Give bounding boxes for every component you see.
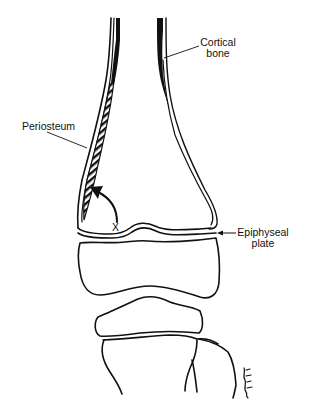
label-cortical-bone: Cortical bone: [198, 37, 238, 59]
signature-scribble: [244, 368, 252, 398]
left-arrow-icon: [217, 231, 223, 236]
x-curved-arrow: [98, 192, 117, 222]
label-periosteum: Periosteum: [22, 121, 75, 132]
tibia-right-edge-b: [192, 360, 197, 392]
periosteum-leader: [47, 132, 87, 148]
label-cortical-bone-line2: bone: [198, 48, 238, 59]
diagram-drawing: [0, 0, 314, 403]
label-epiphyseal-plate-line2: plate: [236, 238, 290, 249]
label-epiphyseal-plate: Epiphyseal plate: [236, 227, 290, 249]
right-shaft-inner-line: [163, 60, 213, 225]
subperiosteal-hatched-region: [84, 80, 114, 220]
tibia-left-edge: [102, 340, 122, 394]
left-cortical-bone: [110, 18, 120, 92]
epiphysis: [79, 238, 220, 298]
cortical-bone-leader: [164, 46, 199, 58]
label-x-marker: X: [112, 222, 119, 233]
fibula-head: [199, 339, 236, 398]
bone-diagram: Cortical bone Periosteum X Epiphyseal pl…: [0, 0, 314, 403]
tibial-epiphysis: [95, 297, 202, 337]
